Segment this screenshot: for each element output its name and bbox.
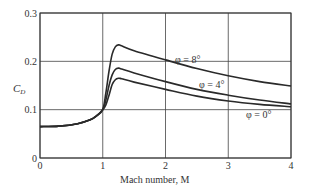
x-tick-label: 1 bbox=[100, 160, 105, 171]
label-phi-8: φ = 8° bbox=[175, 54, 200, 65]
drag-coefficient-chart: 0123400.10.20.3 Mach number, M CD φ = 8°… bbox=[0, 0, 312, 189]
y-tick-label: 0 bbox=[32, 153, 37, 164]
y-tick-label: 0.2 bbox=[25, 56, 38, 67]
x-tick-label: 2 bbox=[163, 160, 168, 171]
y-tick-label: 0.3 bbox=[25, 8, 38, 19]
grid-lines bbox=[40, 13, 291, 158]
x-tick-label: 4 bbox=[289, 160, 294, 171]
y-axis-label: CD bbox=[13, 82, 25, 96]
y-axis-label-sub: D bbox=[19, 88, 25, 96]
label-phi-0: φ = 0° bbox=[246, 109, 271, 120]
axis-ticks: 0123400.10.20.3 bbox=[25, 8, 294, 172]
y-tick-label: 0.1 bbox=[25, 104, 38, 115]
label-phi-4: φ = 4° bbox=[199, 79, 224, 90]
x-tick-label: 0 bbox=[38, 160, 43, 171]
x-tick-label: 3 bbox=[226, 160, 231, 171]
x-axis-label: Mach number, M bbox=[120, 174, 189, 185]
